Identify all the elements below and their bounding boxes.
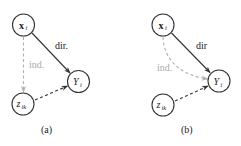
- indirect-label: ind.: [157, 62, 172, 73]
- panel-b: x i Y i z ik dir ind. (b): [152, 14, 230, 136]
- node-x-label: x: [19, 20, 24, 31]
- indirect-label: ind.: [29, 59, 44, 70]
- direct-label: dir.: [55, 40, 68, 51]
- node-z: z ik: [152, 94, 174, 116]
- node-z: z ik: [12, 93, 34, 115]
- node-y-subscript: i: [80, 81, 82, 88]
- panel-a: x i Y i z ik dir. ind. (a): [12, 14, 90, 136]
- caption-a: (a): [41, 124, 52, 136]
- node-x: x i: [13, 14, 35, 36]
- node-x: x i: [152, 14, 174, 36]
- node-y-subscript: i: [221, 81, 223, 88]
- node-y: Y i: [208, 70, 230, 92]
- node-z-subscript: ik: [22, 103, 27, 110]
- node-y: Y i: [68, 71, 90, 93]
- node-z-label: z: [156, 99, 161, 110]
- causal-diagram: x i Y i z ik dir. ind. (a) x i: [0, 0, 241, 146]
- node-x-subscript: i: [165, 24, 167, 31]
- node-x-label: x: [159, 20, 164, 31]
- z-to-y-edge: [175, 86, 208, 101]
- node-z-subscript: ik: [162, 104, 167, 111]
- node-x-subscript: i: [26, 24, 28, 31]
- z-to-y-edge: [35, 86, 68, 100]
- caption-b: (b): [181, 124, 193, 136]
- direct-label: dir: [196, 40, 208, 51]
- node-z-label: z: [16, 98, 21, 109]
